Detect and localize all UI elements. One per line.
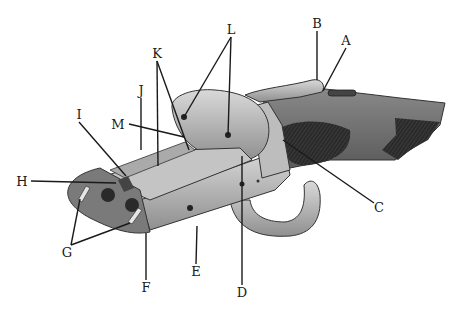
label-k: K — [152, 46, 162, 61]
leader-line-e — [196, 226, 197, 264]
label-g: G — [62, 245, 72, 260]
knuckle-pin — [187, 205, 193, 211]
leader-line-k — [157, 61, 158, 166]
label-f: F — [141, 280, 150, 295]
label-m: M — [111, 117, 124, 132]
label-a: A — [340, 33, 351, 48]
label-c: C — [374, 200, 384, 215]
label-j: J — [136, 83, 143, 98]
label-d: D — [237, 285, 247, 300]
leader-line-g — [71, 223, 130, 245]
shotgun-action-diagram: ABCDEFGHIJKLM — [0, 0, 470, 316]
label-i: I — [76, 107, 81, 122]
label-h: H — [16, 174, 27, 189]
label-b: B — [312, 16, 322, 31]
leader-line-m — [129, 124, 184, 137]
leader-line-a — [323, 48, 346, 91]
safety-slide — [328, 90, 356, 96]
label-l: L — [227, 22, 236, 37]
label-e: E — [191, 264, 201, 279]
